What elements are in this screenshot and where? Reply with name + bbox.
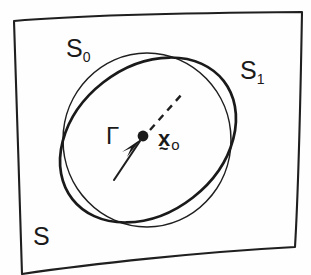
label-x-zero-wrap: x ~: [158, 128, 170, 150]
label-x-zero-tilde-accent: ~: [159, 141, 168, 157]
label-gamma: Γ: [106, 124, 119, 148]
label-x-zero: x ~ o: [158, 128, 179, 150]
label-s-region: S: [33, 224, 50, 249]
label-s-one-base: S: [240, 56, 257, 84]
ellipse-s1: [27, 23, 268, 256]
dashed-ray: [150, 94, 182, 130]
circle-s0: [63, 53, 231, 227]
label-s-one: S1: [240, 58, 264, 83]
label-s-zero-subscript: 0: [83, 49, 91, 65]
label-s-zero: S0: [66, 36, 90, 61]
figure-canvas: S0 S1 S Γ x ~ o: [0, 0, 311, 275]
point-marker-x0: [138, 131, 149, 142]
label-s-one-subscript: 1: [257, 71, 265, 87]
label-s-zero-base: S: [66, 34, 83, 62]
label-x-zero-subscript: o: [171, 136, 179, 153]
